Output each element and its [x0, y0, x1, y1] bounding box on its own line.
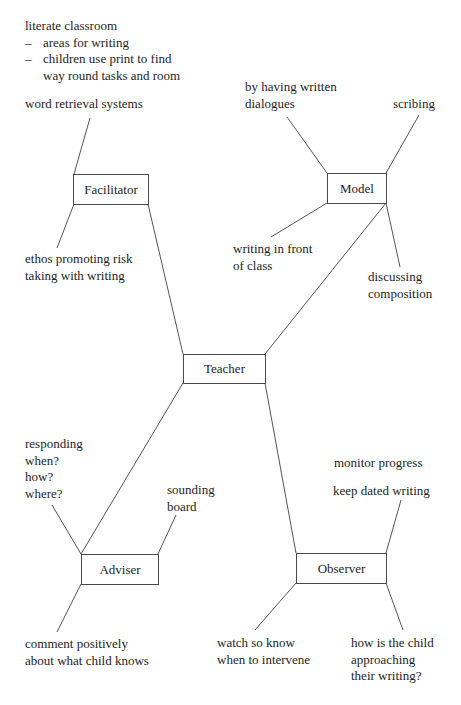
line-adviser-comment: [57, 584, 81, 632]
note-line: approaching: [351, 652, 434, 669]
line-observer-watch: [255, 583, 296, 630]
line-model-front-of-class: [271, 203, 327, 237]
node-facilitator: Facilitator: [73, 174, 149, 205]
note-written-dialogues: by having written dialogues: [245, 79, 337, 112]
note-line: discussing: [368, 269, 432, 286]
line-teacher-observer: [265, 383, 296, 553]
note-how-is-child: how is the child approaching their writi…: [351, 635, 434, 685]
line-facilitator-ethos: [57, 204, 74, 248]
line-facilitator-teacher: [148, 204, 183, 354]
note-line: responding: [25, 436, 83, 453]
node-adviser: Adviser: [81, 554, 159, 585]
note-responding: responding when? how? where?: [25, 436, 83, 502]
line-model-discussing: [386, 203, 400, 267]
bullet-text: children use print to find: [43, 51, 172, 66]
bullet-dash: –: [25, 35, 43, 52]
node-model: Model: [327, 173, 387, 204]
note-watch-intervene: watch so know when to intervene: [217, 635, 310, 668]
node-observer: Observer: [296, 553, 387, 584]
note-ethos: ethos promoting risk taking with writing: [25, 251, 133, 284]
note-line: when to intervene: [217, 652, 310, 669]
note-line: board: [167, 499, 215, 516]
note-line: when?: [25, 453, 83, 470]
line-observer-dated: [386, 500, 401, 553]
note-word-retrieval: word retrieval systems: [25, 96, 143, 113]
note-line: their writing?: [351, 668, 434, 685]
note-literate-classroom: literate classroom –areas for writing –c…: [25, 18, 180, 84]
note-line: of class: [233, 258, 312, 275]
note-line: by having written: [245, 79, 337, 96]
note-line: about what child knows: [25, 653, 149, 670]
note-line: ethos promoting risk: [25, 251, 133, 268]
note-line: how?: [25, 469, 83, 486]
line-model-scribing: [386, 115, 419, 173]
node-teacher: Teacher: [183, 354, 266, 384]
note-sounding-board: sounding board: [167, 482, 215, 515]
note-comment-positively: comment positively about what child know…: [25, 636, 149, 669]
note-monitor-progress: monitor progress: [334, 455, 422, 472]
note-line: comment positively: [25, 636, 149, 653]
note-title: literate classroom: [25, 18, 180, 35]
note-line: sounding: [167, 482, 215, 499]
note-line: watch so know: [217, 635, 310, 652]
line-model-dialogues: [287, 117, 327, 173]
bullet-text: areas for writing: [43, 35, 129, 50]
bullet-text: way round tasks and room: [25, 68, 180, 85]
note-scribing: scribing: [393, 96, 435, 113]
note-keep-dated-writing: keep dated writing: [333, 483, 430, 500]
line-adviser-responding: [52, 505, 81, 554]
note-line: composition: [368, 286, 432, 303]
line-observer-how-child: [386, 583, 403, 630]
bullet-dash: –: [25, 51, 43, 68]
note-line: writing in front: [233, 241, 312, 258]
note-line: how is the child: [351, 635, 434, 652]
line-facilitator-word-retrieval: [74, 118, 90, 174]
note-line: where?: [25, 486, 83, 503]
note-writing-in-front: writing in front of class: [233, 241, 312, 274]
line-adviser-sounding-board: [158, 515, 176, 554]
note-line: dialogues: [245, 96, 337, 113]
line-teacher-adviser: [81, 383, 183, 554]
note-discussing-composition: discussing composition: [368, 269, 432, 302]
note-line: taking with writing: [25, 268, 133, 285]
